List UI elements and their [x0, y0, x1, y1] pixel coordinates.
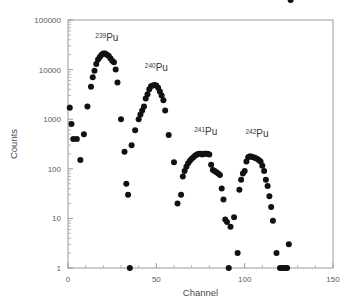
data-point	[118, 116, 124, 122]
y-tick-label: 1	[57, 264, 62, 273]
peak-label: 239Pu	[95, 31, 118, 43]
data-point	[236, 187, 242, 193]
data-point	[242, 168, 248, 174]
y-axis-tick-marks	[68, 20, 73, 268]
data-point	[180, 173, 186, 179]
data-point	[111, 59, 117, 65]
y-axis-tick-labels: 110100100010000100000	[34, 16, 61, 273]
data-point	[268, 204, 274, 210]
peak-label: 242Pu	[245, 127, 268, 139]
data-point	[127, 265, 133, 271]
data-point	[220, 197, 226, 203]
data-point	[69, 121, 75, 127]
data-point	[125, 192, 131, 198]
data-point	[228, 224, 234, 230]
data-point	[284, 265, 290, 271]
data-point	[88, 84, 94, 90]
data-point	[286, 241, 292, 247]
data-point	[74, 136, 80, 142]
y-axis-title: Counts	[8, 129, 19, 159]
data-point	[114, 79, 120, 85]
data-point	[160, 97, 166, 103]
data-point	[132, 127, 138, 133]
y-tick-label: 10	[52, 214, 61, 223]
peak-label: 240Pu	[145, 61, 168, 73]
data-point	[226, 265, 232, 271]
data-point	[90, 74, 96, 80]
x-axis-title: Channel	[183, 287, 218, 298]
data-point	[92, 68, 98, 74]
data-point	[67, 105, 73, 111]
data-point	[171, 159, 177, 165]
y-tick-label: 100000	[34, 16, 61, 25]
y-tick-label: 100	[48, 165, 62, 174]
data-point	[270, 218, 276, 224]
data-point	[162, 107, 168, 113]
data-point	[235, 250, 241, 256]
x-tick-label: 0	[66, 275, 71, 284]
data-point	[178, 192, 184, 198]
data-point	[206, 151, 212, 157]
data-point	[265, 183, 271, 189]
x-tick-label: 50	[152, 275, 161, 284]
y-tick-label: 1000	[43, 115, 61, 124]
data-point	[224, 219, 230, 225]
peak-annotation-group: 239Pu240Pu241Pu242Pu	[95, 31, 268, 139]
data-point	[219, 186, 225, 192]
data-point	[266, 193, 272, 199]
x-axis-tick-labels: 050100150	[66, 275, 340, 284]
x-tick-label: 150	[326, 275, 340, 284]
data-point	[231, 214, 237, 220]
data-point	[263, 177, 269, 183]
data-point	[288, 0, 294, 3]
data-point	[175, 200, 181, 206]
data-point	[113, 67, 119, 73]
x-axis-tick-marks	[68, 263, 333, 268]
data-point	[166, 132, 172, 138]
data-point	[81, 131, 87, 137]
data-point	[123, 181, 129, 187]
data-point	[77, 157, 83, 163]
data-point	[129, 142, 135, 148]
plot-area: 110100100010000100000 050100150 239Pu240…	[0, 0, 348, 300]
data-point	[238, 177, 244, 183]
data-point	[261, 168, 267, 174]
data-point	[259, 163, 265, 169]
data-point	[273, 250, 279, 256]
data-point	[122, 149, 128, 155]
x-tick-label: 100	[238, 275, 252, 284]
peak-label: 241Pu	[194, 126, 217, 138]
data-point	[141, 104, 147, 110]
y-tick-label: 10000	[39, 66, 62, 75]
scatter-chart: 110100100010000100000 050100150 239Pu240…	[0, 0, 348, 300]
data-point	[84, 104, 90, 110]
data-point	[217, 172, 223, 178]
